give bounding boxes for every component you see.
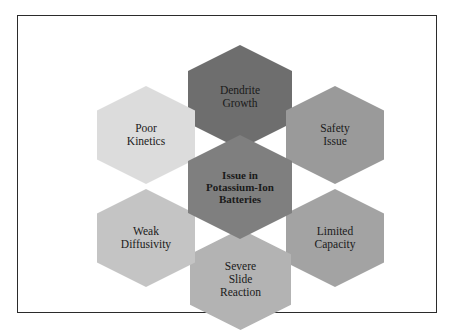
node-dendrite-growth-label: Dendrite Growth [208, 84, 272, 110]
node-limited-capacity-line-2: Capacity [309, 238, 362, 251]
node-weak-diffusivity-label: Weak Diffusivity [109, 225, 183, 251]
node-poor-kinetics[interactable]: Poor Kinetics [97, 86, 195, 184]
node-weak-diffusivity[interactable]: Weak Diffusivity [97, 189, 195, 287]
node-limited-capacity-line-1: Limited [309, 225, 362, 238]
node-weak-diffusivity-line-2: Diffusivity [115, 238, 177, 251]
node-dendrite-growth-line-2: Growth [214, 97, 266, 110]
node-severe-slide-reaction-line-1: Severe [214, 260, 267, 273]
node-severe-slide-reaction[interactable]: Severe Slide Reaction [190, 229, 291, 330]
node-severe-slide-reaction-label: Severe Slide Reaction [208, 260, 273, 299]
node-dendrite-growth[interactable]: Dendrite Growth [188, 45, 292, 149]
node-poor-kinetics-line-1: Poor [121, 122, 171, 135]
center-node-line-2: Potassium-Ion [200, 181, 280, 193]
center-node-label: Issue in Potassium-Ion Batteries [194, 169, 286, 206]
node-safety-issue-line-2: Issue [314, 135, 355, 148]
node-weak-diffusivity-line-1: Weak [115, 225, 177, 238]
node-severe-slide-reaction-line-3: Reaction [214, 286, 267, 299]
diagram-frame: Dendrite Growth Safety Issue Limited Cap… [17, 15, 437, 313]
node-dendrite-growth-line-1: Dendrite [214, 84, 266, 97]
node-poor-kinetics-line-2: Kinetics [121, 135, 171, 148]
center-node[interactable]: Issue in Potassium-Ion Batteries [188, 135, 292, 239]
node-safety-issue[interactable]: Safety Issue [286, 86, 384, 184]
center-node-line-1: Issue in [200, 169, 280, 181]
node-safety-issue-line-1: Safety [314, 122, 355, 135]
node-severe-slide-reaction-line-2: Slide [214, 273, 267, 286]
node-limited-capacity-label: Limited Capacity [303, 225, 368, 251]
center-node-line-3: Batteries [200, 193, 280, 205]
node-safety-issue-label: Safety Issue [308, 122, 361, 148]
node-limited-capacity[interactable]: Limited Capacity [286, 189, 384, 287]
node-poor-kinetics-label: Poor Kinetics [115, 122, 177, 148]
